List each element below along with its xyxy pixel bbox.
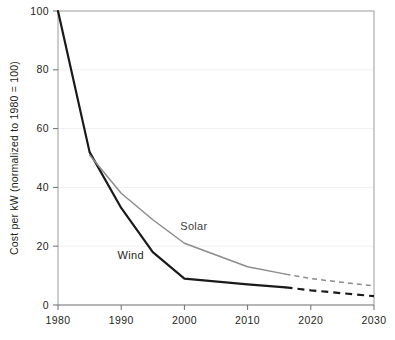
y-tick-label-80: 80 [37,63,49,75]
x-tick-label-2010: 2010 [235,314,260,326]
series-label-solar: Solar [180,220,207,232]
y-tick-label-20: 20 [37,240,49,252]
chart-figure: 198019902000201020202030 020406080100 Wi… [0,0,395,340]
cost-per-kw-line-chart: 198019902000201020202030 020406080100 Wi… [0,0,395,340]
x-tick-label-1990: 1990 [109,314,134,326]
y-axis-title: Cost per kW (normalized to 1980 = 100) [8,61,20,255]
x-tick-label-2000: 2000 [172,314,197,326]
y-tick-label-40: 40 [37,181,49,193]
x-tick-label-2020: 2020 [298,314,323,326]
y-tick-label-60: 60 [37,122,49,134]
y-tick-label-100: 100 [30,5,49,17]
series-label-wind: Wind [118,249,144,261]
x-tick-label-1980: 1980 [46,314,71,326]
chart-background [0,0,395,340]
x-tick-label-2030: 2030 [362,314,387,326]
y-tick-label-0: 0 [43,299,49,311]
